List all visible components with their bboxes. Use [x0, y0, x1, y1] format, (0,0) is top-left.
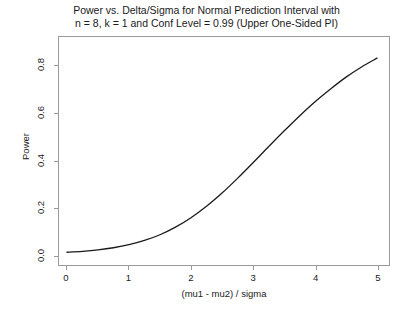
y-tick-label: 0.2: [28, 202, 52, 214]
y-tick-mark: [54, 256, 58, 257]
y-tick-label: 0.6: [28, 107, 52, 119]
y-tick-mark: [54, 113, 58, 114]
x-tick-mark: [191, 266, 192, 270]
y-tick-label: 0.4: [28, 155, 52, 167]
x-tick-label: 2: [179, 272, 203, 283]
y-tick-mark: [54, 208, 58, 209]
x-tick-label: 3: [241, 272, 265, 283]
plot-area: [58, 36, 390, 266]
y-tick-label: 0.8: [28, 59, 52, 71]
y-axis-label: Power: [20, 112, 31, 182]
x-tick-mark: [66, 266, 67, 270]
chart-title: Power vs. Delta/Sigma for Normal Predict…: [0, 4, 413, 30]
x-tick-label: 1: [116, 272, 140, 283]
x-tick-label: 0: [54, 272, 78, 283]
x-tick-mark: [128, 266, 129, 270]
y-tick-mark: [54, 65, 58, 66]
power-curve-path: [67, 58, 377, 252]
chart-root: Power vs. Delta/Sigma for Normal Predict…: [0, 0, 413, 313]
x-axis-label: (mu1 - mu2) / sigma: [58, 288, 390, 299]
x-tick-label: 5: [366, 272, 390, 283]
y-tick-mark: [54, 161, 58, 162]
x-tick-mark: [378, 266, 379, 270]
x-tick-label: 4: [304, 272, 328, 283]
x-tick-mark: [253, 266, 254, 270]
power-curve: [59, 37, 389, 265]
x-tick-mark: [316, 266, 317, 270]
y-tick-label: 0.0: [28, 250, 52, 262]
